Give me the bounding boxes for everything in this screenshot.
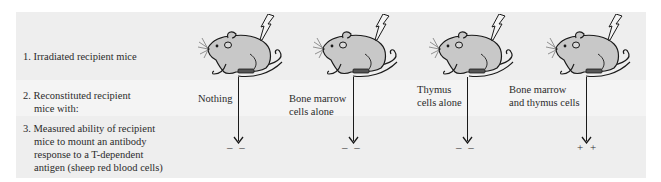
step-2-label: 2. Reconstituted recipient mice with: (23, 89, 131, 115)
step-3-label: 3. Measured ability of recipient mice to… (23, 122, 163, 174)
step-number: 1. (23, 51, 31, 62)
reconstitution-label: Nothing (198, 92, 232, 105)
irradiated-mouse-icon (429, 14, 521, 82)
reconstitution-label: Bone marrow and thymus cells (509, 83, 580, 109)
step-text-cont: mice with: (23, 102, 131, 115)
reconstitution-label: Bone marrow cells alone (289, 92, 346, 118)
label-line: cells alone (417, 96, 462, 109)
label-line: cells alone (289, 105, 346, 118)
label-line: Bone marrow (289, 92, 346, 105)
reconstitution-label: Thymus cells alone (417, 83, 462, 109)
step-1-label: 1. Irradiated recipient mice (23, 50, 137, 63)
irradiated-mouse-icon (546, 14, 638, 82)
step-number: 3. (23, 123, 31, 134)
arrow-line (353, 77, 354, 141)
step-text-cont: mice to mount an antibody (23, 135, 163, 148)
step-text: Measured ability of recipient (34, 123, 156, 134)
arrow-line (586, 77, 587, 141)
step-text: Reconstituted recipient (34, 90, 131, 101)
step-text-cont: response to a T-dependent (23, 148, 163, 161)
label-line: and thymus cells (509, 96, 580, 109)
arrow-line (467, 77, 468, 141)
step-number: 2. (23, 90, 31, 101)
irradiated-mouse-icon (313, 14, 405, 82)
irradiated-mouse-icon (198, 14, 290, 82)
label-line: Thymus (417, 83, 462, 96)
label-line: Nothing (198, 92, 232, 105)
label-line: Bone marrow (509, 83, 580, 96)
result-negative: – – (227, 141, 247, 153)
step-text: Irradiated recipient mice (34, 51, 137, 62)
step-text-cont: antigen (sheep red blood cells) (23, 161, 163, 174)
result-negative: – – (456, 141, 476, 153)
result-negative: – – (342, 141, 362, 153)
arrow-line (238, 77, 239, 141)
result-positive: + + (577, 141, 598, 153)
